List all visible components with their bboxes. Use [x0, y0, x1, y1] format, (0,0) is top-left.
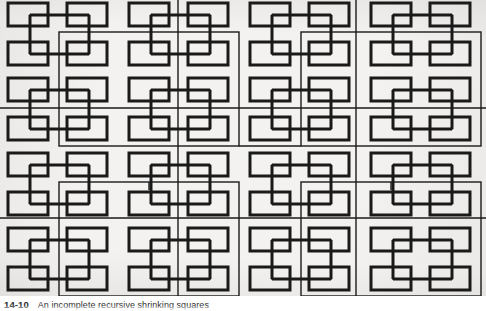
medium-square [393, 90, 452, 129]
medium-square [393, 165, 452, 204]
recursive-shrinking-squares-figure [0, 0, 486, 296]
medium-square [393, 240, 452, 279]
medium-square [151, 165, 210, 204]
caption-number: 14-10 [4, 299, 29, 310]
medium-square [393, 15, 452, 54]
medium-square [151, 240, 210, 279]
caption-text: An incomplete recursive shrinking square… [38, 300, 209, 310]
medium-square [151, 15, 210, 54]
figure-page: 14-10An incomplete recursive shrinking s… [0, 0, 486, 311]
figure-caption: 14-10An incomplete recursive shrinking s… [0, 296, 486, 311]
medium-square [151, 90, 210, 129]
